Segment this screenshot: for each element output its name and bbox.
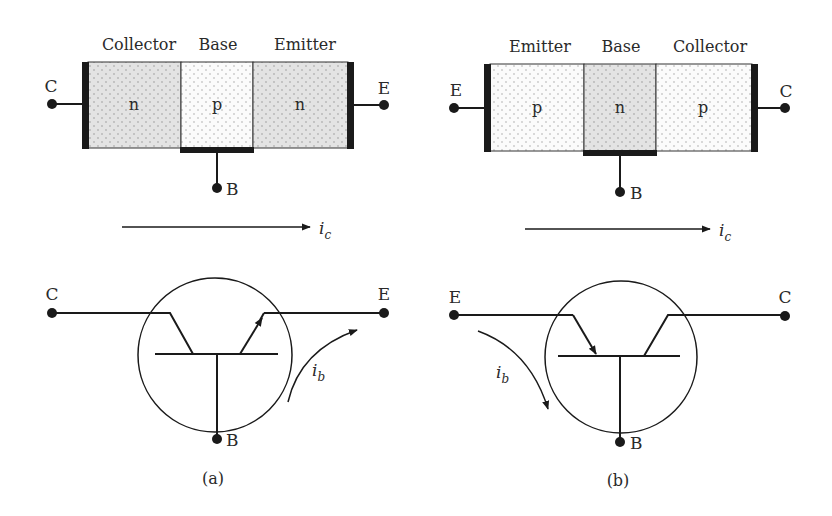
terminal-label-b: B [226, 179, 239, 199]
base-terminal-dot [212, 183, 222, 193]
terminal-label-b: B [630, 183, 643, 203]
collector-terminal-dot [47, 99, 57, 109]
emitter-symbol-dot [379, 308, 389, 318]
base-current-label: ib [312, 360, 325, 384]
header-collector: Collector [673, 37, 748, 56]
pnp-structure-block: p n p [484, 64, 758, 156]
terminal-label-e: E [378, 78, 390, 98]
symbol-label-b: B [226, 430, 239, 450]
caption-b: (b) [607, 471, 630, 490]
region-type-label: n [615, 98, 625, 117]
emitter-arrow [573, 315, 596, 354]
base-symbol-dot [212, 434, 222, 444]
base-current-label: ib [496, 362, 509, 386]
emitter-terminal-dot [379, 100, 389, 110]
symbol-label-e: E [449, 287, 461, 307]
symbol-label-c: C [778, 287, 791, 307]
bjt-diagram: Collector Base Emitter n p n C E B ic [0, 0, 832, 516]
collector-current-label: ic [719, 220, 731, 244]
collector-wire [52, 313, 193, 354]
header-emitter: Emitter [509, 37, 571, 56]
emitter-terminal-dot [449, 103, 459, 113]
terminal-label-e: E [450, 80, 462, 100]
base-current-arrow [478, 331, 548, 409]
npn-symbol: C E B [45, 278, 390, 450]
collector-symbol-dot [780, 311, 790, 321]
base-contact [180, 147, 254, 153]
region-type-label: n [129, 95, 139, 114]
collector-symbol-dot [47, 308, 57, 318]
panel-a: Collector Base Emitter n p n C E B ic [44, 35, 390, 488]
base-terminal-dot [615, 187, 625, 197]
terminal-label-c: C [44, 76, 57, 96]
collector-current-label: ic [319, 218, 331, 242]
base-symbol-dot [615, 437, 625, 447]
panel-b: Emitter Base Collector p n p E C B ic [449, 37, 793, 490]
npn-structure-block: n p n [82, 62, 354, 153]
region-type-label: n [295, 95, 305, 114]
collector-contact [82, 62, 89, 149]
collector-terminal-dot [780, 103, 790, 113]
header-base: Base [199, 35, 238, 54]
caption-a: (a) [202, 469, 224, 488]
collector-wire [644, 315, 785, 356]
base-current-arrow [288, 330, 357, 402]
emitter-contact [347, 62, 354, 149]
region-type-label: p [698, 98, 708, 117]
collector-contact [751, 64, 758, 152]
region-type-label: p [212, 95, 222, 114]
header-emitter: Emitter [274, 35, 336, 54]
base-contact [583, 150, 657, 156]
symbol-label-b: B [630, 433, 643, 453]
header-base: Base [602, 37, 641, 56]
terminal-label-c: C [779, 81, 792, 101]
emitter-contact [484, 64, 491, 152]
emitter-symbol-dot [449, 310, 459, 320]
header-collector: Collector [102, 35, 177, 54]
emitter-arrow [240, 318, 262, 354]
region-type-label: p [532, 98, 542, 117]
symbol-label-e: E [378, 284, 390, 304]
symbol-label-c: C [45, 284, 58, 304]
